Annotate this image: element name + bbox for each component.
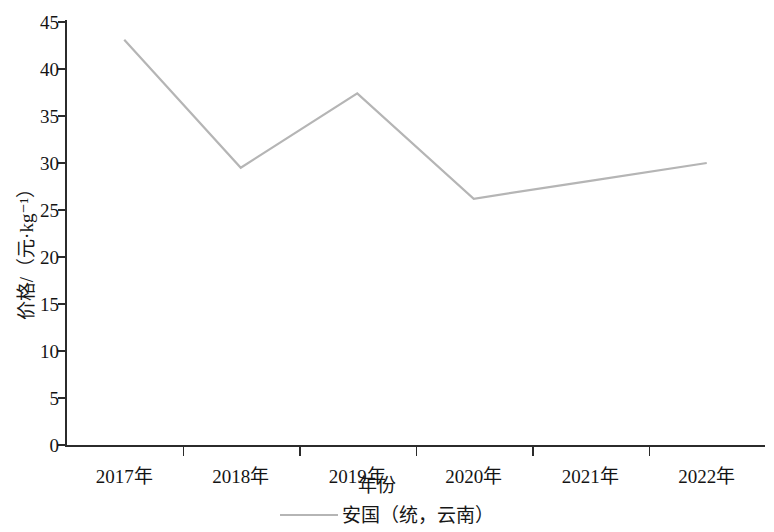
x-tick-mark <box>532 447 534 456</box>
x-tick-mark <box>299 447 301 456</box>
y-tick-label: 35 <box>40 107 59 126</box>
x-tick-mark <box>183 447 185 456</box>
legend-label: 安国（统，云南） <box>342 500 494 527</box>
y-tick-label: 40 <box>40 60 59 79</box>
y-tick-label: 30 <box>40 154 59 173</box>
y-tick-label: 20 <box>40 248 59 267</box>
y-tick-label: 25 <box>40 201 59 220</box>
line-chart-figure: 价格/（元·kg⁻¹） 051015202530354045 2017年2018… <box>0 0 774 532</box>
x-tick-mark <box>416 447 418 456</box>
y-tick-label: 45 <box>40 13 59 32</box>
chart-legend: 安国（统，云南） <box>0 500 774 527</box>
y-tick-mark <box>58 68 66 70</box>
y-tick-mark <box>58 444 66 446</box>
x-axis-title: 年份 <box>0 470 774 497</box>
y-tick-label: 0 <box>50 436 60 455</box>
y-tick-label: 10 <box>40 342 59 361</box>
y-tick-mark <box>58 350 66 352</box>
legend-line-swatch-icon <box>280 514 338 516</box>
y-tick-mark <box>58 162 66 164</box>
y-tick-label: 5 <box>50 389 60 408</box>
y-tick-label: 15 <box>40 295 59 314</box>
series-line <box>124 40 707 199</box>
y-tick-mark <box>58 115 66 117</box>
y-tick-mark <box>58 256 66 258</box>
y-tick-mark <box>58 397 66 399</box>
y-axis-title: 价格/（元·kg⁻¹） <box>11 140 38 360</box>
x-axis-title-text: 年份 <box>358 475 396 496</box>
x-tick-mark <box>649 447 651 456</box>
y-tick-mark <box>58 209 66 211</box>
y-tick-mark <box>58 21 66 23</box>
plot-area: 051015202530354045 <box>66 22 765 445</box>
series-line-layer <box>66 22 765 445</box>
y-tick-mark <box>58 303 66 305</box>
